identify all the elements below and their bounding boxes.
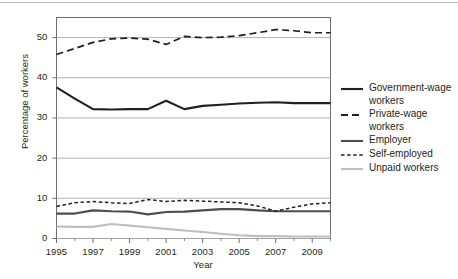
series-line-3: [57, 200, 331, 212]
y-tick-label: 50: [26, 31, 48, 42]
y-axis-title-text: Percentage of workers: [19, 54, 30, 149]
legend-item[interactable]: Self-employed: [340, 148, 458, 161]
y-tick-label: 10: [26, 192, 48, 203]
x-tick-label: 1995: [37, 246, 77, 257]
x-tick-label: 2005: [219, 246, 259, 257]
legend-item[interactable]: Government-wageworkers: [340, 82, 458, 107]
y-tick-label: 0: [26, 232, 48, 243]
legend-item-label: Government-wageworkers: [369, 82, 451, 107]
y-axis-title: Percentage of workers: [19, 42, 30, 162]
series-line-0: [57, 87, 331, 109]
legend-line-swatch: [340, 162, 364, 174]
series-line-4: [57, 224, 331, 236]
series-line-2: [57, 209, 331, 214]
legend-item[interactable]: Unpaid workers: [340, 162, 458, 175]
legend-line-swatch: [340, 148, 364, 160]
legend-item[interactable]: Employer: [340, 134, 458, 147]
y-axis-ticks: [53, 38, 57, 239]
x-tick-label: 2007: [256, 246, 296, 257]
x-tick-label: 2009: [292, 246, 332, 257]
x-axis-title: Year: [173, 259, 233, 270]
x-tick-label: 2003: [183, 246, 223, 257]
legend-item-label: Unpaid workers: [369, 162, 438, 175]
legend-item[interactable]: Private-wageworkers: [340, 108, 458, 133]
plot-frame: [57, 18, 331, 239]
chart-figure: 01020304050 1995199719992001200320052007…: [0, 0, 458, 279]
x-tick-label: 1997: [73, 246, 113, 257]
legend-item-label-line2: workers: [369, 95, 404, 106]
legend-line-swatch: [340, 108, 364, 120]
x-tick-label: 2001: [146, 246, 186, 257]
x-axis-title-text: Year: [193, 259, 213, 270]
series-line-1: [57, 30, 331, 55]
legend-item-label: Private-wageworkers: [369, 108, 427, 133]
legend-line-swatch: [340, 134, 364, 146]
legend-item-label-line2: workers: [369, 121, 404, 132]
legend-line-swatch: [340, 82, 364, 94]
legend-item-label: Self-employed: [369, 148, 433, 161]
chart-legend: Government-wageworkersPrivate-wageworker…: [340, 82, 458, 176]
x-axis-ticks: [57, 239, 331, 244]
x-tick-label: 1999: [110, 246, 150, 257]
data-series-layer: [57, 30, 331, 237]
legend-item-label: Employer: [369, 134, 411, 147]
